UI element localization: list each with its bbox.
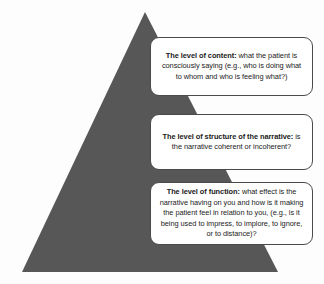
callout-function-text: The level of function: what effect is th…	[158, 187, 305, 239]
callout-content-lead: The level of content:	[166, 51, 237, 60]
pyramid-diagram: The level of content: what the patient i…	[0, 0, 324, 284]
callout-level-of-content: The level of content: what the patient i…	[150, 37, 313, 96]
callout-content-text: The level of content: what the patient i…	[158, 51, 305, 82]
callout-structure-text: The level of structure of the narrative:…	[158, 132, 305, 153]
callout-function-lead: The level of function:	[167, 187, 240, 196]
callout-structure-lead: The level of structure of the narrative:	[163, 132, 294, 141]
callout-level-of-structure: The level of structure of the narrative:…	[150, 114, 313, 170]
callout-level-of-function: The level of function: what effect is th…	[150, 182, 313, 245]
